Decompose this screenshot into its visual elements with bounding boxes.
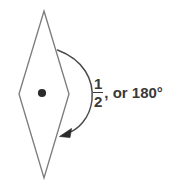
center-of-rotation-dot [38, 89, 46, 97]
fraction-numerator: 1 [93, 76, 103, 91]
fraction-one-half: 1 2 [93, 76, 103, 109]
rotation-figure: 1 2 , or 180° [0, 0, 178, 186]
label-degrees-text: , or 180° [104, 84, 163, 100]
rotation-amount-label: 1 2 , or 180° [93, 76, 163, 109]
fraction-denominator: 2 [93, 94, 103, 109]
arrowhead-icon [60, 129, 72, 138]
